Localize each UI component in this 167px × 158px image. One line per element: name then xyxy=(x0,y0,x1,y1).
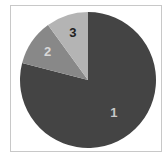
pie-label-3: 3 xyxy=(69,25,76,40)
pie-label-1: 1 xyxy=(110,105,117,120)
pie-label-2: 2 xyxy=(44,44,51,59)
pie-chart: 123 xyxy=(0,0,167,158)
